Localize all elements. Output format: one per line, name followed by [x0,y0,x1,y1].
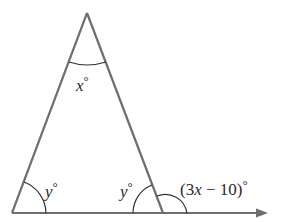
exterior-angle-label: (3x − 10)° [180,177,248,199]
left-angle-label: y° [43,179,58,201]
right-interior-angle-arc [133,185,152,213]
right-interior-angle-label: y° [118,179,133,201]
left-angle-arc [24,182,46,213]
apex-angle-label: x° [75,73,89,95]
arrow-head-icon [256,209,268,218]
triangle-diagram: x° y° y° (3x − 10)° [0,0,283,222]
apex-angle-arc [69,62,106,65]
